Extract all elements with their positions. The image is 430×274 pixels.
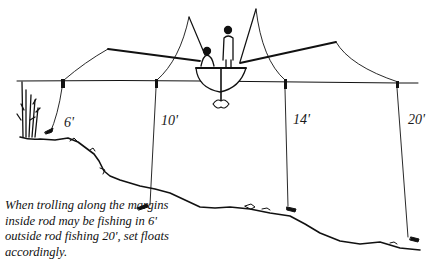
float-10ft xyxy=(155,79,158,88)
float-14ft xyxy=(284,79,287,89)
propeller xyxy=(213,100,229,108)
depth-label-20ft: 20' xyxy=(408,113,425,127)
angler-seated-body xyxy=(201,55,214,66)
rod-right-outer xyxy=(240,42,336,63)
depth-label-6ft: 6' xyxy=(64,116,74,130)
line-6ft xyxy=(64,49,108,80)
drop-20ft xyxy=(397,88,408,237)
rod-left-inner xyxy=(108,49,200,61)
drop-6ft xyxy=(50,88,62,133)
rod-left-outer xyxy=(189,17,205,55)
line-10ft xyxy=(157,17,189,80)
float-6ft xyxy=(61,79,65,88)
line-20ft xyxy=(336,42,398,82)
bait-14ft xyxy=(287,207,296,212)
bait-6ft xyxy=(45,128,53,134)
drop-14ft xyxy=(285,89,288,206)
bait-20ft xyxy=(410,237,419,242)
depth-label-10ft: 10' xyxy=(161,114,178,128)
depth-label-14ft: 14' xyxy=(293,113,310,127)
angler-seated-head xyxy=(204,48,211,55)
line-14ft xyxy=(256,9,285,80)
float-20ft xyxy=(396,81,399,88)
angler-standing-head xyxy=(225,27,232,34)
rod-right-inner xyxy=(240,9,256,62)
illustration-caption: When trolling along the margins inside r… xyxy=(5,198,195,260)
reeds xyxy=(17,82,40,137)
angler-standing-body xyxy=(223,36,233,60)
boat xyxy=(196,27,246,109)
